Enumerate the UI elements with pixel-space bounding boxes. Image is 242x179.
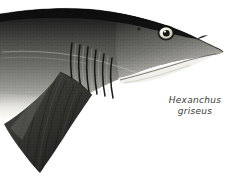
shark-illustration (0, 0, 242, 179)
caption-species: griseus (164, 106, 226, 116)
eye-highlight (164, 31, 167, 33)
caption-genus: Hexanchus (164, 95, 226, 105)
illustration-plate: Hexanchus griseus (0, 0, 242, 179)
